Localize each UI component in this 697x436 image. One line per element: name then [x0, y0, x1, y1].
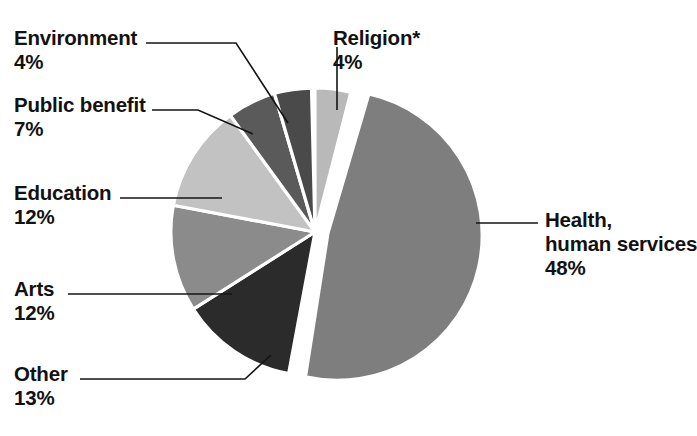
pie-label-public-benefit-percent: 7%	[14, 117, 146, 141]
pie-label-religion-name: Religion*	[333, 26, 420, 50]
pie-label-other-percent: 13%	[14, 386, 68, 410]
pie-label-religion: Religion* 4%	[333, 26, 420, 74]
pie-label-education-percent: 12%	[14, 205, 111, 229]
pie-label-arts-name: Arts	[14, 277, 54, 301]
pie-label-environment: Environment 4%	[14, 26, 137, 74]
pie-label-environment-name: Environment	[14, 26, 137, 50]
pie-slices	[171, 88, 482, 380]
pie-label-public-benefit-name: Public benefit	[14, 93, 146, 117]
pie-label-health-percent: 48%	[545, 256, 697, 280]
pie-label-other-name: Other	[14, 362, 68, 386]
pie-label-health-human-services: Health, human services 48%	[545, 208, 697, 281]
pie-label-environment-percent: 4%	[14, 50, 137, 74]
pie-label-education: Education 12%	[14, 181, 111, 229]
pie-label-public-benefit: Public benefit 7%	[14, 93, 146, 141]
leader-line-other	[80, 355, 271, 379]
pie-label-religion-percent: 4%	[333, 50, 420, 74]
pie-label-education-name: Education	[14, 181, 111, 205]
pie-label-health-name-line2: human services	[545, 232, 697, 256]
pie-label-arts: Arts 12%	[14, 277, 54, 325]
pie-label-arts-percent: 12%	[14, 301, 54, 325]
pie-label-health-name: Health,	[545, 208, 697, 232]
pie-label-other: Other 13%	[14, 362, 68, 410]
